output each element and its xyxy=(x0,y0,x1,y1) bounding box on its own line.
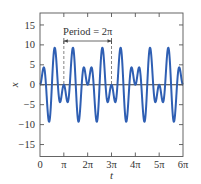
y-tick-label: −15 xyxy=(19,139,35,150)
y-tick-label: −10 xyxy=(19,119,35,130)
y-tick-label: 15 xyxy=(25,20,36,31)
y-tick-labels: 151050−5−10−15 xyxy=(19,20,35,151)
period-annotation-label: Period = 2π xyxy=(63,26,113,37)
period-plot: 0π2π3π4π5π6π 151050−5−10−15 t x Period =… xyxy=(0,0,201,184)
x-tick-label: 2π xyxy=(82,159,93,170)
x-tick-label: 6π xyxy=(178,159,189,170)
y-tick-label: −5 xyxy=(24,99,35,110)
y-axis-label: x xyxy=(8,82,20,88)
x-tick-label: 4π xyxy=(130,159,141,170)
y-tick-label: 0 xyxy=(30,79,35,90)
x-tick-labels: 0π2π3π4π5π6π xyxy=(37,159,189,170)
x-tick-label: 0 xyxy=(37,159,42,170)
x-tick-label: π xyxy=(61,159,67,170)
x-axis-label: t xyxy=(110,169,114,181)
y-tick-label: 5 xyxy=(30,59,35,70)
x-tick-label: 5π xyxy=(154,159,165,170)
period-double-arrow xyxy=(64,38,112,44)
y-tick-label: 10 xyxy=(25,39,36,50)
